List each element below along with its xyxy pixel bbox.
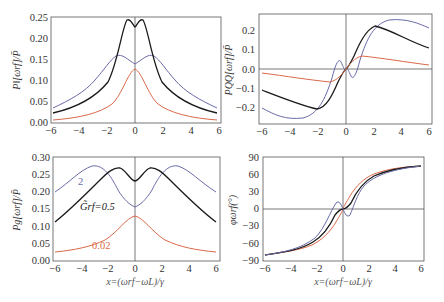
- svg-text:0.20: 0.20: [30, 33, 48, 44]
- svg-text:4: 4: [398, 126, 404, 137]
- svg-text:0.2: 0.2: [242, 25, 255, 36]
- svg-text:−2: −2: [101, 125, 112, 136]
- curve-red: [55, 216, 216, 252]
- svg-text:−6: −6: [49, 263, 60, 274]
- y-axis-label: PQQ[ωrf]/P̄: [223, 45, 234, 97]
- svg-text:−2: −2: [311, 263, 322, 274]
- svg-text:−90: −90: [243, 255, 259, 266]
- svg-text:30: 30: [249, 186, 260, 197]
- svg-text:−4: −4: [285, 263, 297, 274]
- svg-text:2: 2: [159, 263, 164, 274]
- svg-text:0.1: 0.1: [242, 44, 255, 55]
- figure: 0.00 0.05 0.10 0.15 0.20 0.25 −6 −4 −2 0…: [0, 0, 444, 302]
- y-ticks: −90 −60 −30 0 30 60 90: [243, 152, 259, 266]
- svg-text:−6: −6: [45, 125, 56, 136]
- svg-text:−0.2: −0.2: [236, 102, 255, 113]
- svg-text:−0.1: −0.1: [236, 83, 255, 94]
- svg-text:0.10: 0.10: [30, 75, 48, 86]
- y-axis-label: P‖[ωrf]/P̄: [11, 50, 22, 90]
- svg-text:0.00: 0.00: [32, 255, 50, 266]
- svg-text:0.15: 0.15: [32, 203, 50, 214]
- annotation-g2: 2: [78, 176, 83, 187]
- svg-text:−2: −2: [102, 263, 113, 274]
- plot-frame: [53, 157, 220, 261]
- svg-text:4: 4: [186, 263, 192, 274]
- svg-text:−4: −4: [76, 263, 88, 274]
- x-ticks: −6 −4 −2 0 2 4 6: [49, 263, 218, 274]
- x-axis-label: x=(ωrf−ωL)/γ: [105, 276, 165, 288]
- svg-text:2: 2: [371, 126, 376, 137]
- svg-text:6: 6: [216, 125, 221, 136]
- svg-text:0.10: 0.10: [32, 221, 50, 232]
- svg-text:0.30: 0.30: [32, 152, 50, 163]
- svg-text:6: 6: [426, 126, 431, 137]
- svg-text:0.15: 0.15: [30, 54, 48, 65]
- svg-text:0.05: 0.05: [32, 238, 50, 249]
- y-axis-label: Pg[ωrf]/P̄: [11, 189, 22, 232]
- y-axis-label: φωrf(°): [227, 194, 239, 225]
- svg-text:90: 90: [249, 152, 260, 163]
- svg-text:0: 0: [254, 203, 259, 214]
- svg-text:0.05: 0.05: [30, 96, 48, 107]
- svg-text:4: 4: [188, 125, 194, 136]
- svg-text:0: 0: [132, 263, 137, 274]
- svg-text:0.20: 0.20: [32, 186, 50, 197]
- svg-text:0: 0: [340, 263, 345, 274]
- annotation-g002: 0.02: [92, 240, 110, 251]
- curve-black: [262, 26, 429, 109]
- panel-top-left: 0.00 0.05 0.10 0.15 0.20 0.25 −6 −4 −2 0…: [11, 12, 222, 136]
- panel-top-right: −0.2 −0.1 0.0 0.1 0.2 −6 −4 −2 0 2 4 6 P…: [223, 14, 432, 137]
- svg-text:−4: −4: [284, 126, 296, 137]
- svg-text:−30: −30: [243, 220, 259, 231]
- y-ticks: 0.00 0.05 0.10 0.15 0.20 0.25: [30, 12, 48, 128]
- annotation-g05: G̃rf=0.5: [80, 200, 115, 212]
- x-axis-label: x=(ωrf−ωL)/γ: [313, 276, 373, 288]
- panel-bottom-left: 2 G̃rf=0.5 0.02 0.00 0.05 0.10 0.15 0.20…: [11, 152, 220, 288]
- svg-text:−60: −60: [243, 238, 259, 249]
- svg-text:6: 6: [418, 263, 423, 274]
- y-ticks: −0.2 −0.1 0.0 0.1 0.2: [236, 25, 255, 113]
- x-ticks: −6 −4 −2 0 2 4 6: [45, 125, 221, 136]
- svg-text:−6: −6: [259, 263, 270, 274]
- x-ticks: −6 −4 −2 0 2 4 6: [256, 126, 431, 137]
- svg-text:2: 2: [160, 125, 165, 136]
- svg-text:−6: −6: [256, 126, 267, 137]
- svg-text:0.0: 0.0: [242, 64, 255, 75]
- svg-text:0: 0: [132, 125, 137, 136]
- svg-text:−4: −4: [73, 125, 85, 136]
- svg-text:2: 2: [366, 263, 371, 274]
- panel-bottom-right: −90 −60 −30 0 30 60 90 −6 −4 −2 0 2 4 6 …: [227, 152, 424, 288]
- svg-text:0.25: 0.25: [32, 169, 50, 180]
- svg-text:4: 4: [392, 263, 398, 274]
- svg-text:60: 60: [249, 169, 260, 180]
- svg-text:0.25: 0.25: [30, 12, 48, 23]
- svg-text:−2: −2: [312, 126, 323, 137]
- svg-text:0: 0: [343, 126, 348, 137]
- y-ticks: 0.00 0.05 0.10 0.15 0.20 0.25 0.30: [32, 152, 50, 266]
- x-ticks: −6 −4 −2 0 2 4 6: [259, 263, 423, 274]
- svg-text:6: 6: [213, 263, 218, 274]
